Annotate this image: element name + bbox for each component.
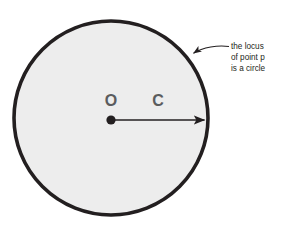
- locus-diagram-figure: O C the locus of point p is a circle: [0, 0, 281, 232]
- radius-label-c: C: [152, 92, 164, 109]
- annotation-line-1: the locus: [231, 42, 264, 51]
- center-point-dot: [106, 115, 115, 124]
- annotation-line-2: of point p: [231, 53, 265, 62]
- annotation-leader-line: [194, 46, 230, 53]
- diagram-canvas: O C the locus of point p is a circle: [0, 0, 281, 232]
- annotation-line-3: is a circle: [231, 64, 266, 73]
- center-label-o: O: [105, 92, 117, 109]
